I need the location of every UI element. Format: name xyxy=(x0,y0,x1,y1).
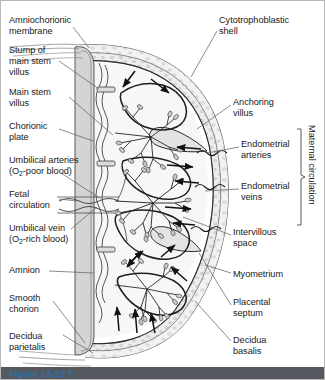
label-endometrial-arteries: Endometrial arteries xyxy=(241,139,289,161)
o2-suffix: -rich blood) xyxy=(23,234,68,244)
o2-prefix: (O xyxy=(9,234,19,244)
label-smooth-chorion: Smooth chorion xyxy=(9,293,40,315)
label-placental-septum: Placental septum xyxy=(233,297,270,319)
label-umbilical-vein-detail: (O2-rich blood) xyxy=(9,234,68,247)
figure-caption-text: Figure 13-22 T xyxy=(9,368,73,379)
label-endometrial-veins: Endometrial veins xyxy=(241,181,289,203)
label-chorionic-plate: Chorionic plate xyxy=(9,121,47,143)
label-amniochorionic-membrane: Amniochorionic membrane xyxy=(9,15,71,37)
label-umbilical-vein: Umbilical vein xyxy=(9,223,65,234)
label-decidua-parietalis: Decidua parietalis xyxy=(9,331,45,353)
figure-caption-bar: Figure 13-22 T xyxy=(1,367,325,379)
label-myometrium: Myometrium xyxy=(233,269,283,280)
o2-prefix: (O xyxy=(9,166,19,176)
label-umbilical-arteries: Umbilical arteries xyxy=(9,155,79,166)
figure-panel: Amniochorionic membrane Stump of main st… xyxy=(0,0,325,380)
label-amnion: Amnion xyxy=(9,265,40,276)
label-stump-main-stem-villus: Stump of main stem villus xyxy=(9,45,51,79)
label-intervillous-space: Intervillous space xyxy=(233,227,276,249)
label-fetal-circulation: Fetal circulation xyxy=(9,189,50,211)
label-umbilical-arteries-detail: (O2-poor blood) xyxy=(9,166,72,179)
maternal-circulation-bracket xyxy=(297,129,305,225)
label-maternal-circulation: Maternal circulation xyxy=(307,125,317,205)
label-decidua-basalis: Decidua basalis xyxy=(233,335,266,357)
label-cytotrophoblastic-shell: Cytotrophoblastic shell xyxy=(219,15,289,37)
label-main-stem-villus: Main stem villus xyxy=(9,87,51,109)
o2-suffix: -poor blood) xyxy=(23,166,72,176)
label-anchoring-villus: Anchoring villus xyxy=(233,97,274,119)
